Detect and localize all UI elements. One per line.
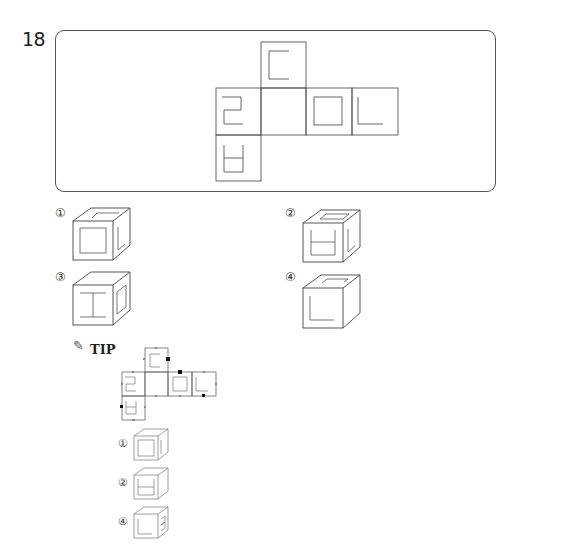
option-2-cube[interactable]	[300, 205, 380, 275]
tip-option-4-cube	[132, 505, 182, 545]
tip-option-1-label: ①	[118, 437, 128, 450]
option-1-label[interactable]: ①	[55, 206, 66, 220]
option-4-label[interactable]: ④	[285, 270, 296, 284]
tip-option-2-cube	[132, 466, 182, 506]
option-4-cube[interactable]	[300, 270, 380, 340]
option-1-cube[interactable]	[70, 205, 150, 275]
tip-option-2-label: ②	[118, 476, 128, 489]
tip-option-4-label: ④	[118, 515, 128, 528]
tip-option-1-cube	[132, 427, 182, 467]
option-3-cube[interactable]	[70, 270, 150, 340]
tip-net	[0, 340, 565, 420]
option-2-label[interactable]: ②	[285, 206, 296, 220]
cube-net	[0, 0, 565, 200]
option-3-label[interactable]: ③	[55, 270, 66, 284]
